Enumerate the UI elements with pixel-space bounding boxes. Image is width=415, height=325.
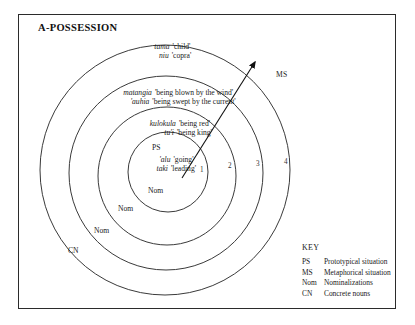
- ring-4-number: 4: [284, 158, 288, 166]
- figure-container: A-POSSESSION MS tama'child' niu'copra' m…: [0, 0, 415, 325]
- ring-3-term-2: 'auhia: [104, 97, 149, 106]
- ring-4-entries: tama'child' niu'copra': [108, 42, 224, 61]
- ring-4-term-1: tama: [142, 42, 170, 51]
- ring-4-zone-tag: CN: [68, 246, 79, 255]
- ring-4-gloss-1: 'child': [170, 42, 191, 51]
- ring-2-number: 2: [228, 162, 232, 170]
- ring-1-entries: 'alu'going' taki'leading': [128, 155, 208, 174]
- ring-2-gloss-2: 'being king': [174, 128, 212, 137]
- ring-3-gloss-1: 'being blown by the wind': [152, 88, 233, 97]
- key-legend: KEY PSPrototypical situation MSMetaphori…: [302, 243, 391, 300]
- ring-3-entries: matangia'being blown by the wind' 'auhia…: [85, 88, 255, 107]
- ring-1-gloss-2: 'leading': [168, 164, 196, 173]
- ring-3-zone-tag: Nom: [94, 226, 109, 235]
- key-row-cn: CNConcrete nouns: [302, 289, 391, 300]
- ms-arrow-label: MS: [276, 70, 287, 79]
- ring-3-number: 3: [256, 160, 260, 168]
- ring-1-zone-tag: Nom: [148, 186, 163, 195]
- key-abbr-cn: CN: [302, 289, 324, 300]
- key-meaning-cn: Concrete nouns: [324, 289, 370, 298]
- key-row-nom: NomNominalizations: [302, 278, 391, 289]
- ring-1-term-1: 'alu: [142, 155, 170, 164]
- key-row-ps: PSPrototypical situation: [302, 257, 391, 268]
- key-row-ms: MSMetaphorical situation: [302, 268, 391, 279]
- ring-2-term-1: kulokula: [132, 119, 176, 128]
- key-meaning-ms: Metaphorical situation: [324, 268, 391, 277]
- key-abbr-ps: PS: [302, 257, 324, 268]
- ring-3-gloss-2: 'being swept by the current': [149, 97, 235, 106]
- ring-2-zone-tag: Nom: [118, 204, 133, 213]
- ring-4-gloss-2: 'copra': [169, 51, 192, 60]
- ring-1-number: 1: [200, 166, 204, 174]
- key-meaning-ps: Prototypical situation: [324, 257, 387, 266]
- ring-1-ps-tag: PS: [152, 143, 160, 152]
- ring-2-gloss-1: 'being red': [176, 119, 210, 128]
- key-abbr-nom: Nom: [302, 278, 324, 289]
- ring-3-term-1: matangia: [107, 88, 152, 97]
- ring-4-term-2: niu: [141, 51, 169, 60]
- ring-2-term-2: tu'i: [130, 128, 174, 137]
- key-abbr-ms: MS: [302, 268, 324, 279]
- key-meaning-nom: Nominalizations: [324, 278, 373, 287]
- ring-2-entries: kulokula'being red' tu'i'being king': [112, 119, 230, 138]
- key-heading: KEY: [302, 243, 391, 252]
- ring-1-gloss-1: 'going': [170, 155, 193, 164]
- ring-1-term-2: taki: [140, 164, 168, 173]
